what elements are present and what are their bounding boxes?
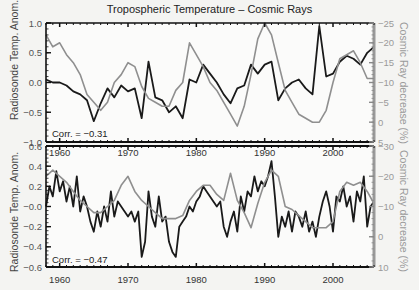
right-y-tick-label: −20 bbox=[378, 37, 394, 48]
top-x-tick-label: 1960 bbox=[49, 147, 70, 158]
top-x-tick-label: 1980 bbox=[186, 147, 207, 158]
right-y-tick-label: 0 bbox=[378, 231, 383, 242]
right-y-tick-label: 0 bbox=[378, 117, 383, 128]
left-y-tick-label: −0.2 bbox=[23, 221, 42, 232]
bottom-x-tick-label: 1960 bbox=[49, 274, 70, 285]
bottom-x-tick-label: 1990 bbox=[254, 274, 275, 285]
left-y-tick-label: −0.5 bbox=[23, 107, 42, 118]
left-y-tick-label: 0.0 bbox=[29, 77, 42, 88]
right-y-tick-label: −5 bbox=[378, 97, 389, 108]
left-y-tick-label: 0.2 bbox=[29, 181, 42, 192]
left-y-tick-label: 1.0 bbox=[29, 18, 42, 29]
bottom-correlation-annotation: Corr. = −0.47 bbox=[52, 254, 107, 265]
left-y-tick-label: −0.0 bbox=[23, 201, 42, 212]
bottom-x-tick-label: 2000 bbox=[322, 274, 343, 285]
left-y-tick-label: 0.5 bbox=[29, 47, 42, 58]
top-x-tick-label: 1990 bbox=[254, 147, 275, 158]
top-right-axis-label: Cosmic Ray decrease (%) bbox=[398, 22, 410, 144]
right-y-tick-label: −10 bbox=[378, 77, 394, 88]
bottom-x-tick-label: 1980 bbox=[186, 274, 207, 285]
bottom-panel: 0.60.40.2−0.0−0.2−0.4−0.6−30−20−10010 bbox=[23, 141, 394, 273]
bottom-x-tick-label: 1970 bbox=[117, 274, 138, 285]
left-y-tick-label: 0.4 bbox=[29, 161, 42, 172]
right-y-tick-label: 10 bbox=[378, 262, 389, 273]
right-y-tick-label: −25 bbox=[378, 18, 394, 29]
top-left-axis-label: Radiosonde Temp. Anom. bbox=[8, 0, 20, 120]
left-y-tick-label: 0.6 bbox=[29, 141, 42, 152]
bottom-left-axis-label: Radiosonde Temp. Anom. bbox=[8, 152, 20, 272]
top-x-tick-label: 1970 bbox=[117, 147, 138, 158]
top-x-tick-label: 2000 bbox=[322, 147, 343, 158]
left-y-tick-label: −0.4 bbox=[23, 241, 42, 252]
right-y-tick-label: −15 bbox=[378, 57, 394, 68]
top-correlation-annotation: Corr. = −0.31 bbox=[52, 128, 107, 139]
right-y-tick-label: −10 bbox=[378, 201, 394, 212]
right-y-tick-label: −30 bbox=[378, 141, 394, 152]
chart-figure: 1.00.50.0−0.5−1.0−25−20−15−10−505 0.60.4… bbox=[0, 0, 419, 290]
right-y-tick-label: −20 bbox=[378, 171, 394, 182]
left-y-tick-label: −0.6 bbox=[23, 262, 42, 273]
bottom-right-axis-label: Cosmic Ray decrease (%) bbox=[398, 150, 410, 272]
